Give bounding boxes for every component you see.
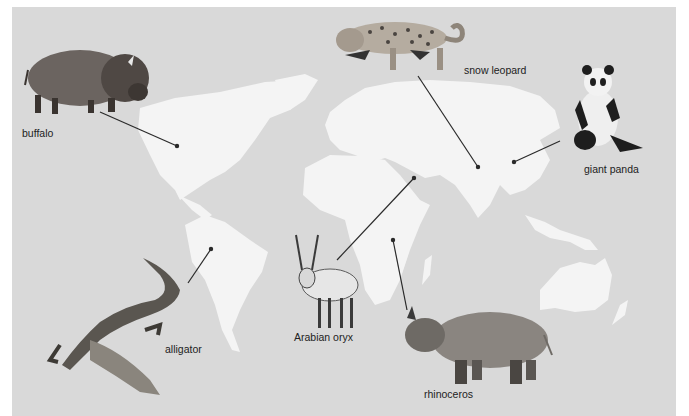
label-buffalo: buffalo	[22, 127, 53, 139]
buffalo-illustration	[25, 50, 149, 114]
buffalo-dot	[175, 144, 178, 147]
madagascar	[422, 255, 432, 285]
rhinoceros-dot	[391, 238, 394, 241]
world-map	[0, 0, 689, 416]
giant-panda-illustration	[574, 65, 643, 152]
continents	[138, 74, 628, 352]
se-asia-islands	[525, 215, 598, 250]
alligator-illustration	[50, 258, 180, 395]
australia	[540, 258, 612, 312]
giant-panda-dot	[512, 160, 515, 163]
snow-leopard-illustration	[336, 22, 462, 70]
south-america	[185, 215, 268, 352]
arabian-oryx-dot	[412, 176, 415, 179]
label-rhinoceros: rhinoceros	[424, 388, 473, 400]
new-zealand	[612, 300, 628, 325]
label-arabian-oryx: Arabian oryx	[294, 331, 353, 343]
arabian-oryx-illustration	[296, 235, 358, 328]
label-snow-leopard: snow leopard	[464, 64, 526, 76]
alligator-dot	[209, 247, 212, 250]
label-giant-panda: giant panda	[584, 163, 639, 175]
snow-leopard-dot	[476, 165, 479, 168]
label-alligator: alligator	[165, 343, 202, 355]
rhinoceros-illustration	[405, 306, 552, 384]
